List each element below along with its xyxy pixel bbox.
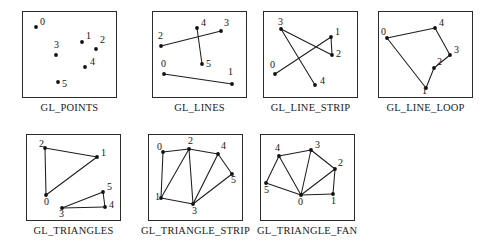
edge-1-2 <box>331 37 332 55</box>
vertex-label-0: 0 <box>270 59 275 70</box>
caption-gl-triangles: GL_TRIANGLES <box>34 225 114 236</box>
edge-5-3 <box>62 192 103 208</box>
edge-3-4 <box>193 154 218 204</box>
vertex-label-0: 0 <box>161 58 166 69</box>
edge-4-5 <box>266 156 279 183</box>
panel-box-gl-triangle-fan: 012345 <box>260 134 355 221</box>
edge-4-5 <box>218 154 232 174</box>
vertex-dot-5 <box>56 80 60 84</box>
panel-gl-triangles: 012345GL_TRIANGLES <box>26 134 121 236</box>
vertex-dot-0 <box>162 72 166 76</box>
vertex-dot-3 <box>219 29 223 33</box>
edge-0-4 <box>279 156 301 195</box>
edge-0-1 <box>161 152 163 198</box>
vertex-label-5: 5 <box>62 78 67 89</box>
vertex-label-5: 5 <box>107 181 112 192</box>
primitive-drawing-gl-lines: 012345 <box>153 12 245 96</box>
vertex-label-2: 2 <box>158 30 163 41</box>
edge-4-3 <box>435 28 450 55</box>
edge-1-0 <box>387 38 426 88</box>
vertex-label-4: 4 <box>201 17 206 28</box>
vertex-dot-4 <box>313 83 317 87</box>
vertex-dot-1 <box>80 40 84 44</box>
primitive-drawing-gl-line-loop: 01234 <box>379 12 471 96</box>
edge-4-5 <box>197 28 202 64</box>
edge-0-2 <box>163 149 189 152</box>
edge-0-1 <box>301 194 333 195</box>
edge-2-3 <box>311 150 335 169</box>
vertex-dot-2 <box>330 53 334 57</box>
vertex-label-5: 5 <box>231 174 236 185</box>
vertex-dot-1 <box>230 82 234 86</box>
panel-gl-points: 012345GL_POINTS <box>22 11 117 113</box>
vertex-dot-3 <box>309 148 313 152</box>
edge-0-1 <box>164 74 232 84</box>
panel-box-gl-lines: 012345 <box>152 11 247 98</box>
vertex-label-4: 4 <box>275 142 280 153</box>
caption-gl-lines: GL_LINES <box>174 102 225 113</box>
vertex-dot-4 <box>277 154 281 158</box>
vertex-dot-1 <box>329 35 333 39</box>
panel-box-gl-triangles: 012345 <box>26 134 121 221</box>
vertex-dot-4 <box>433 26 437 30</box>
vertex-label-1: 1 <box>86 30 91 41</box>
vertex-label-2: 2 <box>338 157 343 168</box>
primitive-drawing-gl-line-strip: 01234 <box>264 12 356 96</box>
vertex-label-2: 2 <box>437 56 442 67</box>
vertex-label-1: 1 <box>335 26 340 37</box>
edge-3-4 <box>279 150 311 156</box>
primitive-drawing-gl-triangle-strip: 012345 <box>149 135 241 219</box>
vertex-label-3: 3 <box>59 208 64 219</box>
primitive-drawing-gl-triangle-fan: 012345 <box>261 135 353 219</box>
vertex-dot-3 <box>448 53 452 57</box>
vertex-label-0: 0 <box>40 16 45 27</box>
vertex-dot-0 <box>273 72 277 76</box>
edge-2-1 <box>426 68 434 88</box>
vertex-label-4: 4 <box>109 199 114 210</box>
vertex-label-3: 3 <box>315 139 320 150</box>
vertex-dot-4 <box>195 26 199 30</box>
vertex-label-4: 4 <box>439 17 444 28</box>
vertex-label-2: 2 <box>188 135 193 146</box>
caption-gl-triangle-strip: GL_TRIANGLE_STRIP <box>141 225 250 236</box>
vertex-label-2: 2 <box>336 48 341 59</box>
vertex-dot-2 <box>187 147 191 151</box>
vertex-label-4: 4 <box>320 75 325 86</box>
vertex-dot-2 <box>333 167 337 171</box>
vertex-dot-3 <box>54 53 58 57</box>
vertex-label-1: 1 <box>155 191 160 202</box>
caption-gl-line-loop: GL_LINE_LOOP <box>386 102 464 113</box>
opengl-primitives-figure: 012345GL_POINTS012345GL_LINES01234GL_LIN… <box>0 0 482 249</box>
vertex-label-0: 0 <box>44 196 49 207</box>
vertex-dot-1 <box>95 155 99 159</box>
edge-2-0 <box>45 148 46 195</box>
edge-0-1 <box>275 37 331 74</box>
vertex-label-0: 0 <box>381 26 386 37</box>
edge-1-3 <box>161 198 193 204</box>
vertex-label-0: 0 <box>298 196 303 207</box>
panel-gl-line-loop: 01234GL_LINE_LOOP <box>378 11 473 113</box>
panel-gl-triangle-fan: 012345GL_TRIANGLE_FAN <box>257 134 357 236</box>
panel-gl-line-strip: 01234GL_LINE_STRIP <box>263 11 358 113</box>
vertex-label-3: 3 <box>278 16 283 27</box>
vertex-label-4: 4 <box>90 56 95 67</box>
caption-gl-line-strip: GL_LINE_STRIP <box>271 102 351 113</box>
vertex-dot-5 <box>200 62 204 66</box>
primitive-drawing-gl-points: 012345 <box>23 12 115 96</box>
vertex-label-3: 3 <box>54 39 59 50</box>
edge-4-5 <box>103 192 105 207</box>
caption-gl-points: GL_POINTS <box>41 102 99 113</box>
vertex-dot-5 <box>101 190 105 194</box>
edge-1-2 <box>161 149 189 198</box>
vertex-label-3: 3 <box>224 17 229 28</box>
edge-0-4 <box>387 28 435 38</box>
vertex-label-2: 2 <box>100 34 105 45</box>
vertex-label-1: 1 <box>101 147 106 158</box>
vertex-dot-2 <box>432 66 436 70</box>
vertex-label-1: 1 <box>228 66 233 77</box>
vertex-label-2: 2 <box>39 138 44 149</box>
vertex-dot-2 <box>94 47 98 51</box>
vertex-label-0: 0 <box>157 141 162 152</box>
vertex-label-1: 1 <box>331 195 336 206</box>
panel-box-gl-line-strip: 01234 <box>263 11 358 98</box>
